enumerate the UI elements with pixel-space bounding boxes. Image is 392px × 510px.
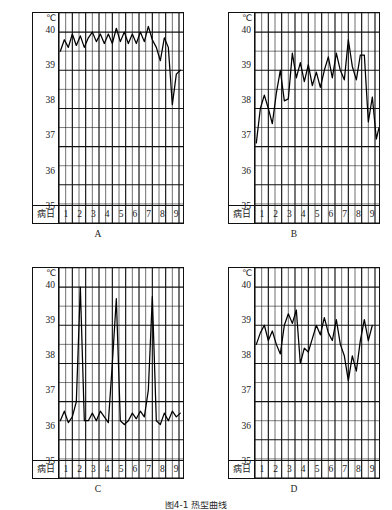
x-tick-3-D: 3 (283, 461, 297, 478)
x-tick-1-A: 1 (59, 206, 73, 223)
x-tick-4-B: 4 (296, 206, 310, 223)
x-tick-1-B: 1 (255, 206, 269, 223)
x-tick-9-C: 9 (169, 461, 183, 478)
y-axis-column-C: ℃ 403938373635 (33, 268, 59, 478)
y-tick-39-B: 39 (242, 61, 252, 71)
temperature-curve-C (60, 287, 180, 424)
plot-area-C (59, 268, 183, 478)
x-axis-label-D: 病日 (229, 461, 255, 478)
panel-frame-C: ℃ 403938373635 病日 123456789 (32, 267, 184, 479)
panel-letter-D: D (196, 485, 392, 495)
x-tick-1-D: 1 (255, 461, 269, 478)
x-axis-footer-C: 病日 123456789 (33, 460, 183, 478)
x-axis-footer-A: 病日 123456789 (33, 205, 183, 223)
temperature-curve-A (60, 26, 180, 104)
unit-label-D: ℃ (242, 269, 252, 278)
plot-area-D (255, 268, 379, 478)
x-tick-5-D: 5 (310, 461, 324, 478)
x-tick-8-C: 8 (155, 461, 169, 478)
x-tick-4-D: 4 (296, 461, 310, 478)
panel-letter-A: A (0, 230, 196, 240)
figure-caption: 图4-1 热型曲线 (0, 501, 392, 510)
plot-svg-B (255, 13, 379, 223)
y-tick-38-B: 38 (242, 96, 252, 106)
y-tick-37-A: 37 (46, 132, 56, 142)
y-tick-40-B: 40 (242, 26, 252, 36)
plot-area-A (59, 13, 183, 223)
chart-panel-A: ℃ 403938373635 病日 123456789 A (0, 0, 196, 255)
y-tick-37-C: 37 (46, 387, 56, 397)
chart-panel-C: ℃ 403938373635 病日 123456789 C (0, 255, 196, 510)
y-tick-36-C: 36 (46, 422, 56, 432)
x-tick-8-B: 8 (351, 206, 365, 223)
x-tick-2-D: 2 (269, 461, 283, 478)
y-tick-40-C: 40 (46, 281, 56, 291)
x-tick-7-C: 7 (142, 461, 156, 478)
chart-panel-D: ℃ 403938373635 病日 123456789 D (196, 255, 392, 510)
x-tick-6-A: 6 (128, 206, 142, 223)
y-tick-39-D: 39 (242, 316, 252, 326)
x-tick-2-B: 2 (269, 206, 283, 223)
y-tick-37-D: 37 (242, 387, 252, 397)
x-tick-6-B: 6 (324, 206, 338, 223)
panel-frame-A: ℃ 403938373635 病日 123456789 (32, 12, 184, 224)
y-tick-38-C: 38 (46, 351, 56, 361)
y-tick-40-D: 40 (242, 281, 252, 291)
unit-label-C: ℃ (46, 269, 56, 278)
panel-letter-B: B (196, 230, 392, 240)
x-tick-5-C: 5 (114, 461, 128, 478)
plot-svg-C (59, 268, 183, 478)
y-tick-36-D: 36 (242, 422, 252, 432)
y-tick-39-C: 39 (46, 316, 56, 326)
x-axis-ticks-A: 123456789 (59, 206, 183, 223)
x-tick-6-C: 6 (128, 461, 142, 478)
x-axis-ticks-C: 123456789 (59, 461, 183, 478)
x-axis-ticks-D: 123456789 (255, 461, 379, 478)
y-tick-39-A: 39 (46, 61, 56, 71)
panel-frame-B: ℃ 403938373635 病日 123456789 (228, 12, 380, 224)
y-tick-36-B: 36 (242, 167, 252, 177)
chart-panel-B: ℃ 403938373635 病日 123456789 B (196, 0, 392, 255)
x-tick-7-B: 7 (338, 206, 352, 223)
unit-label-B: ℃ (242, 14, 252, 23)
y-tick-37-B: 37 (242, 132, 252, 142)
y-axis-column-B: ℃ 403938373635 (229, 13, 255, 223)
x-tick-2-C: 2 (73, 461, 87, 478)
plot-area-B (255, 13, 379, 223)
x-tick-4-A: 4 (100, 206, 114, 223)
x-axis-label-C: 病日 (33, 461, 59, 478)
unit-label-A: ℃ (46, 14, 56, 23)
x-axis-label-B: 病日 (229, 206, 255, 223)
x-tick-8-A: 8 (155, 206, 169, 223)
x-tick-9-A: 9 (169, 206, 183, 223)
x-tick-5-A: 5 (114, 206, 128, 223)
x-tick-3-A: 3 (87, 206, 101, 223)
x-tick-3-B: 3 (283, 206, 297, 223)
plot-svg-A (59, 13, 183, 223)
x-axis-label-A: 病日 (33, 206, 59, 223)
y-tick-36-A: 36 (46, 167, 56, 177)
fever-chart-figure: ℃ 403938373635 病日 123456789 A ℃ 40393837… (0, 0, 392, 510)
x-tick-6-D: 6 (324, 461, 338, 478)
panel-frame-D: ℃ 403938373635 病日 123456789 (228, 267, 380, 479)
y-tick-38-A: 38 (46, 96, 56, 106)
panel-letter-C: C (0, 485, 196, 495)
x-axis-footer-B: 病日 123456789 (229, 205, 379, 223)
x-tick-9-B: 9 (365, 206, 379, 223)
x-axis-footer-D: 病日 123456789 (229, 460, 379, 478)
x-tick-4-C: 4 (100, 461, 114, 478)
x-tick-8-D: 8 (351, 461, 365, 478)
y-tick-40-A: 40 (46, 26, 56, 36)
x-tick-9-D: 9 (365, 461, 379, 478)
x-axis-ticks-B: 123456789 (255, 206, 379, 223)
x-tick-5-B: 5 (310, 206, 324, 223)
x-tick-3-C: 3 (87, 461, 101, 478)
y-axis-column-A: ℃ 403938373635 (33, 13, 59, 223)
x-tick-1-C: 1 (59, 461, 73, 478)
y-tick-38-D: 38 (242, 351, 252, 361)
plot-svg-D (255, 268, 379, 478)
y-axis-column-D: ℃ 403938373635 (229, 268, 255, 478)
x-tick-2-A: 2 (73, 206, 87, 223)
x-tick-7-D: 7 (338, 461, 352, 478)
x-tick-7-A: 7 (142, 206, 156, 223)
